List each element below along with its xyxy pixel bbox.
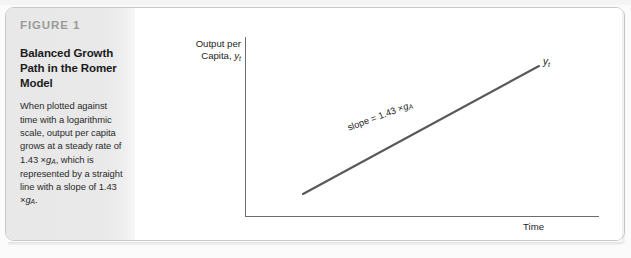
slope-annotation: slope = 1.43 ×gA <box>346 99 414 133</box>
series-end-label: yt <box>543 56 550 69</box>
y-axis-line <box>245 37 246 217</box>
figure-root: FIGURE 1 Balanced Growth Path in the Rom… <box>0 0 631 258</box>
growth-rate-symbol-2: gA <box>25 194 35 205</box>
y-axis-label: Output per Capita, yt <box>153 38 241 64</box>
figure-frame: FIGURE 1 Balanced Growth Path in the Rom… <box>5 7 625 241</box>
y-axis-label-line1: Output per <box>196 38 241 49</box>
page-top-edge <box>0 0 631 5</box>
y-axis-variable-subscript: t <box>239 55 241 62</box>
figure-title: Balanced Growth Path in the Romer Model <box>20 46 126 92</box>
chart-panel: Output per Capita, yt Time slope = 1.43 … <box>135 8 624 240</box>
x-axis-label: Time <box>523 221 544 232</box>
figure-description: When plotted against time with a logarit… <box>20 99 126 207</box>
slope-annotation-text: slope = 1.43 <box>346 105 400 133</box>
figure-caption-column: FIGURE 1 Balanced Growth Path in the Rom… <box>6 8 135 240</box>
figure-right-shadow <box>622 12 626 244</box>
growth-rate-symbol-1: gA <box>46 154 56 165</box>
series-variable-subscript: t <box>548 60 550 69</box>
figure-bottom-shadow <box>8 242 622 246</box>
y-axis-label-line2: Capita, <box>201 50 234 61</box>
figure-number-label: FIGURE 1 <box>20 20 126 32</box>
slope-annotation-subscript: A <box>407 103 414 111</box>
figure-description-part-3: . <box>35 194 38 205</box>
x-axis-line <box>245 216 599 217</box>
plot-area: Output per Capita, yt Time slope = 1.43 … <box>135 8 625 241</box>
